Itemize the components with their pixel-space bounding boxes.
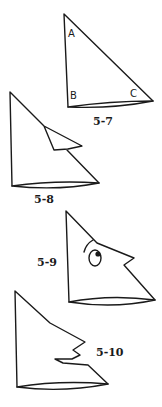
- base-ellipse-5-7: [68, 101, 153, 107]
- figure-5-7: A B C 5-7: [64, 14, 153, 128]
- base-ellipse-5-10: [17, 383, 108, 390]
- triangle-5-7: [64, 14, 153, 107]
- figure-5-9: 5-9: [37, 211, 155, 305]
- base-ellipse-5-8: [12, 182, 99, 188]
- corner-c-label: C: [130, 88, 137, 99]
- pupil: [95, 251, 100, 256]
- diagram-canvas: A B C 5-7 5-8 5-9 5-10: [0, 0, 162, 407]
- corner-a-label: A: [68, 28, 75, 39]
- base-ellipse-5-9: [69, 297, 155, 305]
- cone-5-10: [15, 291, 108, 387]
- figure-label-5-7: 5-7: [93, 115, 113, 128]
- cone-5-8: [10, 92, 99, 186]
- figure-label-5-10: 5-10: [96, 346, 124, 359]
- figure-label-5-9: 5-9: [37, 256, 57, 269]
- figure-label-5-8: 5-8: [34, 193, 54, 206]
- eyebrow: [84, 240, 93, 252]
- cone-5-9: [66, 211, 155, 302]
- corner-b-label: B: [70, 90, 77, 101]
- figure-5-8: 5-8: [10, 92, 99, 206]
